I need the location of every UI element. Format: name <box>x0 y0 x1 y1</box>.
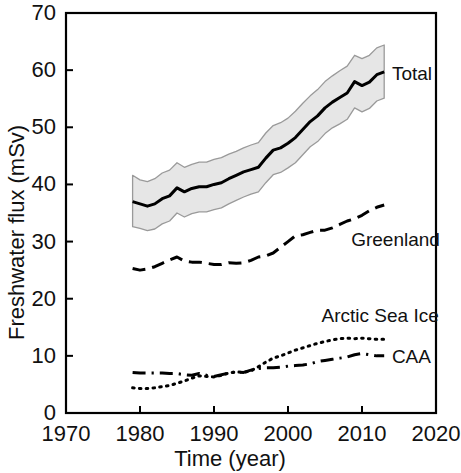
x-tick-label: 2020 <box>412 423 461 445</box>
series-label-total: Total <box>392 64 432 83</box>
y-axis-title: Freshwater flux (mSv) <box>6 125 28 340</box>
series-label-greenland: Greenland <box>351 230 440 249</box>
series-label-caa: CAA <box>392 346 431 365</box>
y-tick-label: 70 <box>8 2 56 24</box>
y-tick-label: 60 <box>8 59 56 81</box>
x-tick-label: 1980 <box>116 423 165 445</box>
uncertainty-band <box>133 45 385 231</box>
y-tick-label: 10 <box>8 345 56 367</box>
series-line-arctic-sea-ice <box>133 338 385 388</box>
x-tick-label: 2010 <box>338 423 387 445</box>
x-axis-title: Time (year) <box>174 448 286 470</box>
uncertainty-band-total <box>133 45 385 231</box>
series-label-arctic-sea-ice: Arctic Sea Ice <box>322 305 439 324</box>
x-tick-label: 1970 <box>42 423 91 445</box>
x-tick-label: 1990 <box>190 423 239 445</box>
figure-freshwater-flux: 010203040506070 197019801990200020102020… <box>0 0 461 473</box>
x-tick-label: 2000 <box>264 423 313 445</box>
